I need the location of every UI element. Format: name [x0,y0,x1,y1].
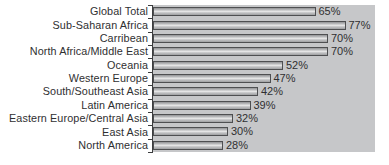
bar [153,47,328,56]
value-label: 77% [349,20,371,31]
chart-row: Sub-Saharan Africa77% [0,18,389,31]
chart-row: North Africa/Middle East70% [0,45,389,58]
bar [153,74,271,83]
bar [153,141,223,150]
value-label: 28% [226,140,248,151]
chart-row: North America28% [0,139,389,152]
category-label: South/Southeast Asia [0,86,148,97]
bar [153,61,283,70]
value-label: 42% [261,86,283,97]
chart-rows: Global Total65%Sub-Saharan Africa77%Carr… [0,5,389,152]
bar [153,101,251,110]
value-label: 70% [331,46,353,57]
axis-tick [148,152,152,153]
value-label: 65% [319,6,341,17]
category-label: Latin America [0,100,148,111]
value-label: 30% [231,126,253,137]
value-label: 70% [331,33,353,44]
bar [153,114,233,123]
bar-chart: Global Total65%Sub-Saharan Africa77%Carr… [0,0,389,165]
value-label: 32% [236,113,258,124]
bar [153,87,258,96]
category-label: East Asia [0,127,148,138]
value-label: 52% [286,60,308,71]
bar [153,21,346,30]
category-label: Sub-Saharan Africa [0,20,148,31]
value-label: 47% [274,73,296,84]
value-label: 39% [254,100,276,111]
bar [153,7,316,16]
category-label: Global Total [0,6,148,17]
category-label: Eastern Europe/Central Asia [0,113,148,124]
chart-row: Eastern Europe/Central Asia32% [0,112,389,125]
category-label: North America [0,140,148,151]
chart-row: South/Southeast Asia42% [0,85,389,98]
category-label: Western Europe [0,73,148,84]
chart-row: Global Total65% [0,5,389,18]
chart-row: Carribean70% [0,32,389,45]
chart-row: Latin America39% [0,99,389,112]
category-label: Oceania [0,60,148,71]
chart-row: East Asia30% [0,125,389,138]
chart-row: Oceania52% [0,58,389,71]
bar [153,34,328,43]
chart-row: Western Europe47% [0,72,389,85]
category-label: North Africa/Middle East [0,46,148,57]
category-label: Carribean [0,33,148,44]
bar [153,127,228,136]
